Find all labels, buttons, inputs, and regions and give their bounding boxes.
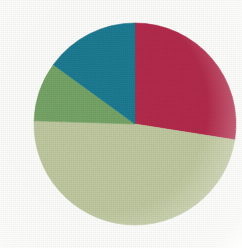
pie-chart-svg bbox=[0, 0, 242, 248]
pie-chart-figure bbox=[0, 0, 242, 248]
pie-slice-crimson bbox=[135, 23, 236, 140]
pie-slice-pale-green bbox=[34, 121, 235, 225]
